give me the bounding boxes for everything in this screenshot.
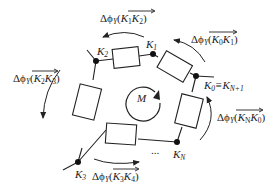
node-kn (174, 139, 180, 145)
flux-label-knk0: ΔϕY(KNK0) (217, 108, 266, 125)
flux-label-k1k2: ΔϕY(K1K2) (100, 9, 155, 26)
node-k2 (93, 58, 99, 64)
flux-label-k2k3: ΔϕY(K2K3) (13, 69, 60, 86)
resistor-k0-kn (175, 94, 204, 128)
flux-label-k0k1: ΔϕY(K0K1) (191, 30, 238, 47)
resistor-k2-k1 (112, 47, 140, 69)
loop-diagram: ... K2 K1 K0≡KN+1 KN K3 M ΔϕY(K1K2) ΔϕY(… (0, 0, 276, 196)
node-k3 (75, 159, 81, 165)
svg-text:ΔϕY(K2K3): ΔϕY(K2K3) (13, 72, 60, 86)
resistor-k1-k0 (157, 51, 192, 82)
resistor-k3-k2 (72, 84, 101, 120)
label-k0: K0≡KN+1 (203, 79, 244, 93)
svg-text:ΔϕY(K3K4): ΔϕY(K3K4) (92, 170, 139, 184)
svg-text:ΔϕY(KNK0): ΔϕY(KNK0) (217, 111, 266, 125)
svg-text:ΔϕY(K1K2): ΔϕY(K1K2) (100, 12, 147, 26)
center-label-m: M (136, 92, 147, 104)
ellipsis-text: ... (151, 144, 160, 156)
resistor-kn-k3 (105, 123, 136, 145)
label-k1: K1 (145, 38, 157, 52)
node-k0 (193, 73, 199, 79)
flux-label-k3k4: ΔϕY(K3K4) (92, 167, 139, 184)
svg-text:ΔϕY(K0K1): ΔϕY(K0K1) (191, 33, 238, 47)
label-k3: K3 (74, 168, 86, 182)
label-kn: KN (172, 148, 186, 162)
label-k2: K2 (96, 45, 108, 59)
